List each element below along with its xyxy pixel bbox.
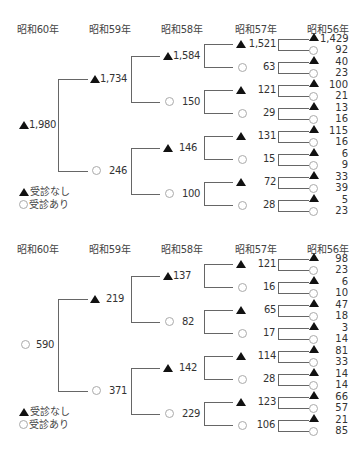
triangle-icon [309, 194, 319, 202]
circle-icon [309, 161, 318, 170]
node-value: 1,584 [173, 50, 200, 62]
node-value: 106 [247, 419, 275, 431]
connector-line [131, 414, 160, 415]
node-value: 16 [247, 281, 275, 293]
leaf-value: 81 [320, 345, 348, 356]
tree-node: 106 [238, 419, 275, 431]
circle-icon [165, 409, 174, 418]
leaf-value: 23 [320, 205, 348, 216]
circle-icon [238, 329, 247, 338]
year-header: 昭和58年 [161, 241, 202, 256]
node-value: 17 [247, 327, 275, 339]
legend-label-visited: 受診あり [29, 418, 69, 431]
connector-line [278, 351, 309, 352]
connector-line [204, 136, 205, 160]
node-value: 219 [106, 293, 124, 305]
leaf-value: 16 [320, 136, 348, 147]
node-value: 131 [246, 130, 276, 142]
connector-line [204, 310, 205, 334]
year-header: 昭和59年 [89, 241, 130, 256]
triangle-icon [309, 253, 319, 261]
node-value: 82 [182, 316, 194, 328]
circle-icon [309, 427, 318, 436]
circle-icon [309, 69, 318, 78]
circle-icon [238, 421, 247, 430]
tree-node: 219 [90, 293, 124, 305]
node-value: 371 [109, 385, 127, 397]
tree-node: 1,584 [163, 50, 200, 62]
tree-node: 114 [236, 350, 276, 362]
triangle-icon [309, 79, 319, 87]
connector-line [204, 264, 205, 288]
legend-label-no-visit: 受診なし [30, 185, 70, 198]
triangle-icon [236, 352, 246, 360]
node-value: 1,734 [100, 73, 127, 85]
tree-node: 371 [92, 385, 127, 397]
connector-line [278, 165, 309, 166]
year-header: 昭和58年 [161, 21, 202, 36]
node-value: 72 [246, 176, 276, 188]
connector-line [58, 391, 88, 392]
connector-line [278, 50, 309, 51]
leaf-value: 40 [320, 56, 348, 67]
tree-node: 100 [165, 188, 200, 200]
circle-icon [309, 46, 318, 55]
triangle-icon [163, 272, 173, 280]
tree-node: 1,734 [90, 73, 127, 85]
circle-icon [309, 115, 318, 124]
triangle-icon [309, 148, 319, 156]
leaf-value: 23 [320, 264, 348, 275]
tree-node: 63 [238, 61, 275, 73]
tree-node: 146 [163, 142, 197, 154]
connector-line [131, 276, 160, 277]
triangle-icon [309, 102, 319, 110]
leaf-value: 9 [320, 159, 348, 170]
leaf-value: 33 [320, 171, 348, 182]
connector-line [204, 182, 205, 206]
triangle-icon [236, 260, 246, 268]
leaf-value: 47 [320, 299, 348, 310]
circle-icon [238, 201, 247, 210]
circle-icon [165, 189, 174, 198]
circle-icon [238, 155, 247, 164]
connector-line [204, 402, 233, 403]
node-value: 123 [246, 396, 276, 408]
connector-line [278, 259, 309, 260]
connector-line [204, 159, 233, 160]
node-value: 28 [247, 199, 275, 211]
triangle-icon [309, 322, 319, 330]
triangle-icon [309, 56, 319, 64]
leaf-value: 23 [320, 67, 348, 78]
triangle-icon [236, 86, 246, 94]
triangle-icon [163, 144, 173, 152]
legend: 受診なし受診あり [19, 185, 70, 211]
circle-icon [92, 386, 101, 395]
triangle-icon [309, 276, 319, 284]
connector-line [278, 108, 309, 109]
connector-line [204, 356, 233, 357]
connector-line [278, 85, 309, 86]
triangle-icon [309, 391, 319, 399]
circle-icon [309, 207, 318, 216]
leaf-value: 100 [320, 79, 348, 90]
tree-node: 229 [165, 408, 200, 420]
leaf-value: 98 [320, 253, 348, 264]
connector-line [204, 333, 233, 334]
triangle-icon [236, 306, 246, 314]
tree-node: 137 [163, 270, 191, 282]
tree-node: 82 [165, 316, 194, 328]
connector-line [278, 282, 309, 283]
leaf-value: 10 [320, 287, 348, 298]
connector-line [278, 142, 309, 143]
connector-line [58, 171, 88, 172]
leaf-value: 5 [320, 194, 348, 205]
connector-line [131, 322, 160, 323]
leaf-value: 1,429 [320, 33, 348, 44]
connector-line [58, 299, 59, 392]
connector-line [204, 113, 233, 114]
connector-line [204, 379, 233, 380]
connector-line [278, 96, 309, 97]
connector-line [204, 264, 233, 265]
leaf-value: 115 [320, 125, 348, 136]
connector-line [204, 44, 233, 45]
